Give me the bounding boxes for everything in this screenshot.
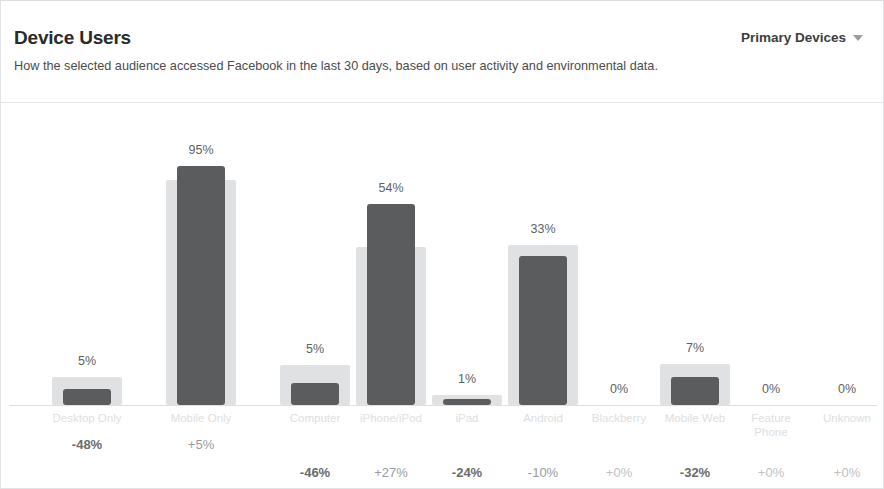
bar-delta-label: -32% — [680, 465, 710, 480]
bar-delta-label: +0% — [606, 465, 632, 480]
value-bar[interactable] — [177, 166, 225, 405]
primary-devices-dropdown[interactable]: Primary Devices — [741, 27, 863, 45]
dropdown-label: Primary Devices — [741, 30, 846, 45]
bar-value-label: 33% — [530, 222, 555, 236]
chart-plot-area: 5%Desktop Only-48%95%Mobile Only+5%5%Com… — [1, 103, 884, 489]
device-users-chart: 5%Desktop Only-48%95%Mobile Only+5%5%Com… — [1, 103, 884, 489]
bar-delta-label: +0% — [758, 465, 784, 480]
bar-value-label: 1% — [458, 372, 476, 386]
bar-group: 0%Unknown+0% — [787, 103, 884, 489]
panel-subtitle: How the selected audience accessed Faceb… — [14, 58, 863, 74]
chevron-down-icon — [853, 35, 863, 41]
bar-delta-label: -48% — [72, 437, 102, 452]
bar-delta-label: +27% — [374, 465, 408, 480]
bar-value-label: 54% — [378, 181, 403, 195]
bar-value-label: 0% — [762, 382, 780, 396]
page-title: Device Users — [14, 27, 131, 49]
bar-category-label: Desktop Only — [42, 411, 132, 425]
bar-value-label: 5% — [306, 342, 324, 356]
bar-value-label: 0% — [838, 382, 856, 396]
bar-value-label: 5% — [78, 354, 96, 368]
bar-group: 95%Mobile Only+5% — [141, 103, 261, 489]
bar-delta-label: +0% — [834, 465, 860, 480]
bar-category-label: Unknown — [802, 411, 884, 425]
bar-group: 5%Desktop Only-48% — [27, 103, 147, 489]
device-users-panel: Device Users Primary Devices How the sel… — [0, 0, 884, 489]
bar-delta-label: -24% — [452, 465, 482, 480]
bar-delta-label: +5% — [188, 437, 214, 452]
title-row: Device Users Primary Devices — [14, 27, 863, 49]
bar-delta-label: -10% — [528, 465, 558, 480]
panel-header: Device Users Primary Devices How the sel… — [1, 1, 883, 103]
value-bar[interactable] — [63, 389, 111, 405]
bar-value-label: 0% — [610, 382, 628, 396]
bar-value-label: 95% — [188, 143, 213, 157]
bar-value-label: 7% — [686, 341, 704, 355]
bar-delta-label: -46% — [300, 465, 330, 480]
bar-category-label: Mobile Only — [156, 411, 246, 425]
